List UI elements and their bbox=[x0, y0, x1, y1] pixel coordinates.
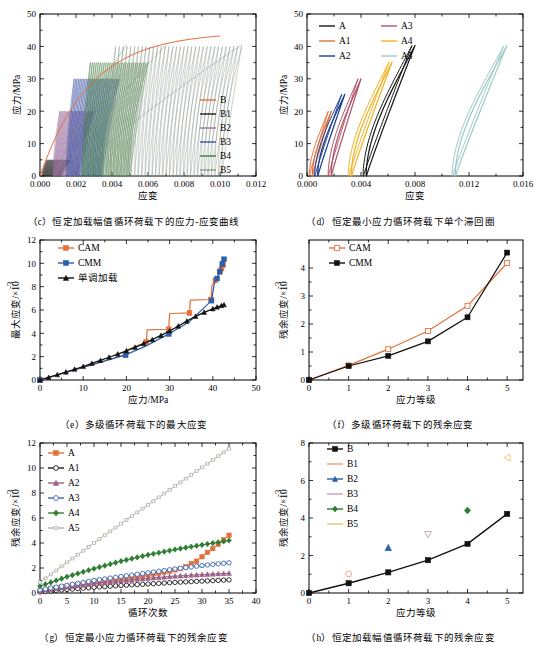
panel-f-chart: 01234501234应力等级残余应变/×10-3CAMCMM bbox=[267, 230, 534, 433]
svg-text:B3: B3 bbox=[220, 137, 231, 147]
svg-text:B2: B2 bbox=[220, 123, 231, 133]
svg-text:50: 50 bbox=[294, 9, 304, 19]
svg-text:A1: A1 bbox=[68, 463, 80, 473]
svg-text:B5: B5 bbox=[347, 519, 358, 529]
svg-text:-3: -3 bbox=[273, 281, 283, 289]
svg-text:循环次数: 循环次数 bbox=[128, 607, 168, 618]
svg-text:12: 12 bbox=[27, 438, 36, 448]
svg-text:6: 6 bbox=[301, 476, 306, 486]
svg-text:4: 4 bbox=[301, 263, 306, 273]
panel-d-chart: 0.0000.0040.0080.0120.01601020304050应变应力… bbox=[267, 0, 534, 230]
svg-text:0: 0 bbox=[38, 596, 43, 606]
svg-text:30: 30 bbox=[294, 74, 304, 84]
svg-text:B: B bbox=[347, 444, 353, 454]
svg-text:5: 5 bbox=[65, 596, 70, 606]
panel-f-caption: （f）多级循环荷载下的残余应变 bbox=[267, 417, 534, 431]
svg-text:0.008: 0.008 bbox=[405, 179, 426, 189]
figure-grid: 0.0000.0020.0040.0060.0080.0100.01201020… bbox=[0, 0, 534, 646]
svg-text:单调加载: 单调加载 bbox=[78, 272, 118, 283]
svg-text:0: 0 bbox=[38, 383, 43, 393]
svg-text:应力等级: 应力等级 bbox=[396, 607, 436, 618]
svg-text:-3: -3 bbox=[273, 489, 283, 497]
panel-d: 0.0000.0040.0080.0120.01601020304050应变应力… bbox=[267, 0, 534, 230]
svg-text:40: 40 bbox=[294, 42, 304, 52]
svg-text:A4: A4 bbox=[401, 36, 413, 46]
svg-text:应变: 应变 bbox=[138, 190, 158, 201]
svg-text:B4: B4 bbox=[220, 151, 231, 161]
svg-text:12: 12 bbox=[27, 235, 36, 245]
svg-text:1: 1 bbox=[301, 347, 306, 357]
svg-text:8: 8 bbox=[32, 488, 37, 498]
svg-text:0.016: 0.016 bbox=[513, 179, 534, 189]
svg-text:B: B bbox=[220, 95, 226, 105]
panel-e: 01020304050024681012应力/MPa最大应变/×10-3CAMC… bbox=[0, 230, 267, 433]
svg-text:0: 0 bbox=[32, 375, 37, 385]
panel-c: 0.0000.0020.0040.0060.0080.0100.01201020… bbox=[0, 0, 267, 230]
svg-text:A3: A3 bbox=[401, 21, 413, 31]
svg-text:A1: A1 bbox=[339, 36, 351, 46]
svg-text:应力等级: 应力等级 bbox=[396, 394, 436, 405]
svg-text:4: 4 bbox=[465, 596, 470, 606]
svg-text:A2: A2 bbox=[339, 51, 351, 61]
svg-text:0: 0 bbox=[299, 171, 304, 181]
svg-text:A5: A5 bbox=[68, 523, 80, 533]
svg-text:3: 3 bbox=[426, 596, 431, 606]
svg-text:2: 2 bbox=[32, 352, 37, 362]
svg-text:10: 10 bbox=[27, 259, 37, 269]
svg-text:CMM: CMM bbox=[78, 258, 102, 268]
svg-text:20: 20 bbox=[294, 107, 304, 117]
svg-text:40: 40 bbox=[27, 42, 37, 52]
svg-text:0.012: 0.012 bbox=[246, 179, 266, 189]
svg-text:B4: B4 bbox=[347, 504, 358, 514]
svg-text:0: 0 bbox=[301, 375, 306, 385]
svg-text:A2: A2 bbox=[68, 478, 80, 488]
svg-text:-3: -3 bbox=[5, 489, 15, 497]
svg-text:3: 3 bbox=[301, 291, 306, 301]
panel-d-caption: （d）恒定最小应力循环荷载下单个滞回圈 bbox=[267, 214, 534, 228]
svg-text:应力/MPa: 应力/MPa bbox=[128, 394, 169, 405]
svg-text:CMM: CMM bbox=[349, 258, 373, 268]
svg-text:0.004: 0.004 bbox=[102, 179, 123, 189]
svg-text:B1: B1 bbox=[220, 109, 231, 119]
svg-text:0.006: 0.006 bbox=[138, 179, 159, 189]
svg-text:4: 4 bbox=[301, 513, 306, 523]
svg-text:20: 20 bbox=[144, 596, 154, 606]
svg-text:0: 0 bbox=[307, 596, 312, 606]
svg-text:6: 6 bbox=[32, 305, 37, 315]
svg-text:20: 20 bbox=[27, 107, 37, 117]
svg-text:0: 0 bbox=[307, 383, 312, 393]
svg-text:30: 30 bbox=[165, 383, 175, 393]
svg-text:0.012: 0.012 bbox=[459, 179, 479, 189]
svg-text:50: 50 bbox=[252, 383, 262, 393]
svg-text:3: 3 bbox=[426, 383, 431, 393]
panel-h-chart: 01234502468应力等级残余应变/×10-3BB1B2B3B4B5 bbox=[267, 433, 534, 646]
svg-text:10: 10 bbox=[27, 139, 37, 149]
svg-text:10: 10 bbox=[294, 139, 304, 149]
svg-text:0.010: 0.010 bbox=[210, 179, 231, 189]
svg-text:0: 0 bbox=[32, 588, 37, 598]
svg-text:应力/MPa: 应力/MPa bbox=[11, 74, 22, 115]
panel-e-caption: （e）多级循环荷载下的最大应变 bbox=[0, 417, 267, 431]
svg-text:0.008: 0.008 bbox=[174, 179, 195, 189]
panel-c-caption: （c）恒定加载幅值循环荷载下的应力-应变曲线 bbox=[0, 214, 267, 228]
svg-text:2: 2 bbox=[301, 319, 306, 329]
svg-text:A4: A4 bbox=[68, 508, 80, 518]
panel-g-chart: 0510152025303540024681012循环次数残余应变/×10-3A… bbox=[0, 433, 267, 646]
svg-text:0.004: 0.004 bbox=[351, 179, 372, 189]
panel-g: 0510152025303540024681012循环次数残余应变/×10-3A… bbox=[0, 433, 267, 646]
panel-c-chart: 0.0000.0020.0040.0060.0080.0100.01201020… bbox=[0, 0, 267, 230]
svg-text:A: A bbox=[339, 21, 346, 31]
svg-text:8: 8 bbox=[301, 438, 306, 448]
svg-text:2: 2 bbox=[301, 551, 306, 561]
svg-text:25: 25 bbox=[171, 596, 181, 606]
svg-text:1: 1 bbox=[346, 383, 351, 393]
svg-text:4: 4 bbox=[32, 329, 37, 339]
svg-text:10: 10 bbox=[79, 383, 89, 393]
svg-text:50: 50 bbox=[27, 9, 37, 19]
svg-text:0.002: 0.002 bbox=[66, 179, 86, 189]
svg-text:应力/MPa: 应力/MPa bbox=[278, 74, 289, 115]
svg-text:应变: 应变 bbox=[405, 190, 425, 201]
svg-text:40: 40 bbox=[252, 596, 262, 606]
svg-text:10: 10 bbox=[27, 463, 37, 473]
svg-text:8: 8 bbox=[32, 282, 37, 292]
